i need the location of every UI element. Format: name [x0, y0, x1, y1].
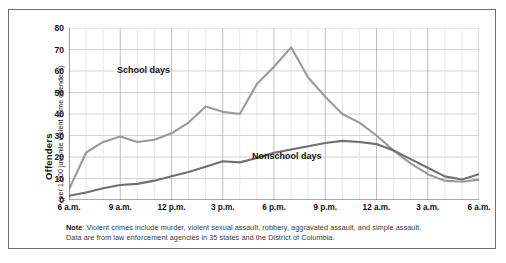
page-bottom-bleed-text — [0, 252, 506, 263]
x-tick-6pm: 6 p.m. — [262, 203, 286, 212]
grid-lines — [69, 28, 479, 200]
x-tick-6am-end: 6 a.m. — [467, 203, 490, 212]
x-tick-12pm: 12 p.m. — [157, 203, 185, 212]
series-label-school-days: School days — [117, 65, 170, 75]
chart-figure-frame: Offenders (per 1,000 juvenile violent cr… — [8, 9, 496, 249]
y-tick-40: 40 — [42, 109, 64, 119]
y-tick-60: 60 — [42, 66, 64, 76]
page-top-bleed-text — [0, 0, 506, 8]
y-tick-50: 50 — [42, 88, 64, 98]
x-tick-3pm: 3 p.m. — [211, 203, 235, 212]
y-tick-80: 80 — [42, 23, 64, 33]
y-tick-10: 10 — [42, 174, 64, 184]
y-tick-70: 70 — [42, 45, 64, 55]
x-tick-9am: 9 a.m. — [109, 203, 132, 212]
series-label-nonschool-days: Nonschool days — [252, 151, 322, 161]
note-label: Note — [66, 223, 82, 232]
x-tick-12am: 12 a.m. — [363, 203, 391, 212]
chart-canvas — [69, 28, 479, 200]
y-tick-20: 20 — [42, 152, 64, 162]
x-tick-3am: 3 a.m. — [416, 203, 439, 212]
x-tick-9pm: 9 p.m. — [313, 203, 337, 212]
chart-note: Note: Violent crimes include murder, vio… — [66, 223, 491, 242]
y-tick-30: 30 — [42, 131, 64, 141]
plot-area — [69, 28, 479, 200]
note-line-1: : Violent crimes include murder, violent… — [82, 223, 421, 232]
x-axis-tick-labels: 6 a.m. 9 a.m. 12 p.m. 3 p.m. 6 p.m. 9 p.… — [69, 203, 479, 215]
x-tick-6am-start: 6 a.m. — [57, 203, 80, 212]
y-axis-tick-labels: 0 10 20 30 40 50 60 70 80 — [39, 28, 64, 200]
note-line-2: Data are from law enforcement agencies i… — [66, 233, 335, 242]
